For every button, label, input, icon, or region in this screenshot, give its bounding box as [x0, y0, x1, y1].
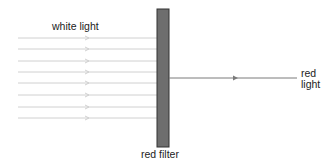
white-light-label: white light	[52, 21, 99, 32]
white-light-rays	[18, 36, 157, 120]
red-filter-block	[157, 9, 169, 147]
red-light-ray	[169, 76, 297, 81]
diagram-canvas	[0, 0, 333, 165]
red-filter-label: red filter	[141, 149, 179, 160]
red-light-label-line2: light	[301, 79, 320, 90]
